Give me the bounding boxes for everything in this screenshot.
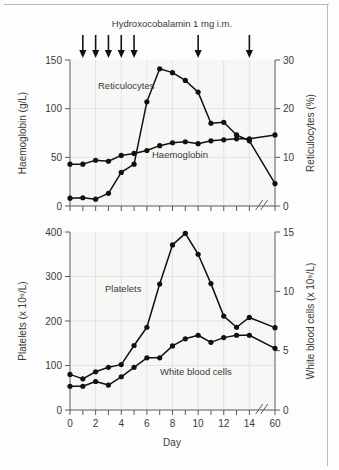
data-point (157, 355, 162, 360)
data-point (106, 191, 111, 196)
x-axis-tick-label: 60 (269, 418, 281, 429)
data-point (106, 365, 111, 370)
clinical-response-chart: 0501001500102030010020030040005101502468… (0, 0, 339, 470)
data-point (93, 379, 98, 384)
data-point (80, 384, 85, 389)
data-point (208, 340, 213, 345)
left-axis-tick-label: 200 (45, 316, 62, 327)
data-point (93, 197, 98, 202)
data-point (119, 153, 124, 158)
left-axis-tick-label: 400 (45, 227, 62, 238)
data-point (183, 231, 188, 236)
data-point (196, 252, 201, 257)
data-point (196, 90, 201, 95)
data-point (80, 376, 85, 381)
data-point (144, 355, 149, 360)
x-axis-tick-label: 0 (67, 418, 73, 429)
data-point (272, 181, 277, 186)
data-point (208, 121, 213, 126)
right-axis-tick-label: 20 (283, 103, 295, 114)
data-point (234, 132, 239, 137)
down-arrow-icon (92, 50, 99, 58)
data-point (67, 384, 72, 389)
data-point (196, 141, 201, 146)
right-axis-tick-label: 10 (283, 286, 295, 297)
data-point (272, 132, 277, 137)
data-point (67, 196, 72, 201)
right-axis-tick-label: 0 (283, 201, 289, 212)
data-point (80, 162, 85, 167)
x-axis-tick-label: 10 (193, 418, 205, 429)
left-axis-tick-label: 0 (56, 201, 62, 212)
data-point (93, 369, 98, 374)
data-point (247, 333, 252, 338)
data-point (234, 333, 239, 338)
data-point (106, 382, 111, 387)
series-label-platelets: Platelets (105, 283, 142, 294)
x-axis-tick-label: 2 (93, 418, 99, 429)
bottom-left-axis-label: Platelets (x 10⁹/L) (17, 281, 28, 360)
data-point (221, 120, 226, 125)
x-axis-tick-label: 8 (170, 418, 176, 429)
data-point (196, 333, 201, 338)
data-point (272, 325, 277, 330)
data-point (157, 66, 162, 71)
left-axis-tick-label: 300 (45, 271, 62, 282)
right-axis-tick-label: 5 (283, 345, 289, 356)
data-point (131, 343, 136, 348)
data-point (183, 139, 188, 144)
series-label-haemoglobin: Haemoglobin (152, 149, 208, 160)
top-left-axis-label: Haemoglobin (g/L) (17, 92, 28, 174)
right-axis-tick-label: 30 (283, 55, 295, 66)
data-point (131, 162, 136, 167)
data-point (144, 148, 149, 153)
series-label-wbc: White blood cells (160, 366, 232, 377)
data-point (119, 374, 124, 379)
top-right-axis-label: Reticulocytes (%) (305, 94, 316, 172)
data-point (208, 281, 213, 286)
right-axis-tick-label: 10 (283, 152, 295, 163)
data-point (221, 137, 226, 142)
data-point (221, 335, 226, 340)
data-point (93, 158, 98, 163)
data-point (170, 140, 175, 145)
left-axis-tick-label: 100 (45, 103, 62, 114)
data-point (131, 365, 136, 370)
data-point (144, 99, 149, 104)
chart-title: Hydroxocobalamin 1 mg i.m. (112, 18, 232, 29)
x-axis-tick-label: 12 (218, 418, 230, 429)
left-axis-tick-label: 150 (45, 55, 62, 66)
data-point (183, 78, 188, 83)
right-axis-tick-label: 0 (283, 405, 289, 416)
data-point (170, 70, 175, 75)
down-arrow-icon (195, 50, 202, 58)
down-arrow-icon (246, 50, 253, 58)
data-point (208, 138, 213, 143)
data-point (119, 362, 124, 367)
data-point (67, 162, 72, 167)
data-point (170, 242, 175, 247)
x-axis-tick-label: 14 (244, 418, 256, 429)
left-axis-tick-label: 100 (45, 360, 62, 371)
data-point (157, 281, 162, 286)
series-label-reticulocytes: Reticulocytes (98, 80, 155, 91)
down-arrow-icon (118, 50, 125, 58)
left-axis-tick-label: 0 (56, 405, 62, 416)
data-point (144, 325, 149, 330)
data-point (80, 195, 85, 200)
down-arrow-icon (105, 50, 112, 58)
data-point (247, 138, 252, 143)
data-point (234, 325, 239, 330)
data-point (247, 315, 252, 320)
figure-canvas: 0501001500102030010020030040005101502468… (0, 0, 339, 470)
data-point (67, 372, 72, 377)
x-axis-tick-label: 4 (118, 418, 124, 429)
down-arrow-icon (130, 50, 137, 58)
data-point (157, 143, 162, 148)
left-axis-tick-label: 50 (51, 152, 63, 163)
x-axis-label: Day (163, 437, 181, 448)
x-axis-tick-label: 6 (144, 418, 150, 429)
right-axis-tick-label: 15 (283, 227, 295, 238)
data-point (119, 170, 124, 175)
data-point (170, 343, 175, 348)
